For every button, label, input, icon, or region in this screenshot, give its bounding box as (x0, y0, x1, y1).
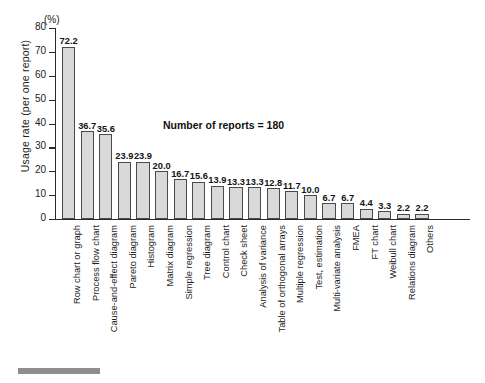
bar-value-label: 72.2 (60, 36, 78, 46)
y-axis-tick-label: 80 (35, 21, 46, 32)
bar: 23.9 (136, 162, 149, 219)
bar-value-label: 6.7 (323, 193, 336, 203)
bar-value-label: 13.3 (227, 177, 245, 187)
bar-value-label: 20.0 (153, 161, 171, 171)
y-axis-tick: 60 (49, 76, 55, 77)
bar-value-label: 12.8 (264, 178, 282, 188)
bar: 12.8 (267, 188, 280, 219)
x-axis-category-label: Histogram (146, 225, 156, 267)
x-axis-category-label: Relations diagram (407, 225, 417, 300)
bar: 15.6 (192, 182, 205, 219)
x-axis-category-label: Cause-and-effect diagram (109, 225, 119, 332)
bar: 6.7 (322, 203, 335, 219)
x-axis-category-label: Control chart (221, 225, 231, 278)
y-axis-tick-label: 40 (35, 117, 46, 128)
x-axis-category-label: Test, estimation (314, 225, 324, 290)
bar-value-label: 15.6 (190, 171, 208, 181)
bar-value-label: 23.9 (115, 151, 133, 161)
y-axis-label: Usage rate (per one report) (19, 11, 31, 201)
x-axis-category-label: Multiple regression (295, 225, 305, 303)
bar: 72.2 (62, 47, 75, 219)
bar: 6.7 (341, 203, 354, 219)
bar: 11.7 (285, 191, 298, 219)
bar-value-label: 11.7 (283, 181, 301, 191)
y-axis-tick-label: 50 (35, 93, 46, 104)
x-axis-category-label: Analysis of variance (258, 225, 268, 308)
bar-value-label: 35.6 (97, 124, 115, 134)
y-axis-tick-label: 70 (35, 45, 46, 56)
bar-value-label: 6.7 (341, 193, 354, 203)
y-axis-tick: 80 (49, 28, 55, 29)
bar: 35.6 (99, 134, 112, 219)
bar-value-label: 16.7 (171, 169, 189, 179)
bar: 13.3 (248, 187, 261, 219)
x-axis-category-label: FT chart (370, 225, 380, 259)
bar-value-label: 4.4 (360, 198, 373, 208)
y-axis-line (55, 28, 56, 219)
x-axis-category-label: Weibull chart (388, 225, 398, 279)
caption-rule (18, 368, 100, 374)
x-axis-category-label: Process flow chart (91, 225, 101, 301)
y-axis-tick: 70 (49, 52, 55, 53)
y-axis-tick-label: 60 (35, 69, 46, 80)
bar: 16.7 (174, 179, 187, 219)
bar: 13.9 (211, 186, 224, 219)
bar-value-label: 13.3 (246, 177, 264, 187)
bar: 2.2 (415, 214, 428, 219)
bar: 4.4 (360, 209, 373, 220)
y-axis-tick: 50 (49, 100, 55, 101)
y-axis-tick-label: 10 (35, 188, 46, 199)
bar-value-label: 23.9 (134, 151, 152, 161)
bar: 36.7 (81, 131, 94, 219)
bar-value-label: 3.3 (378, 201, 391, 211)
x-axis-category-label: Others (425, 225, 435, 253)
x-axis-category-label: Simple regression (184, 225, 194, 299)
y-axis-tick: 30 (49, 147, 55, 148)
x-axis-category-label: Table of orthogonal arrays (277, 225, 287, 333)
x-axis-category-label: Row chart or graph (72, 225, 82, 304)
x-axis-category-label: Multi-variate analysis (332, 225, 342, 312)
x-axis-category-label: Check sheet (239, 225, 249, 277)
bar-chart-figure: Usage rate (per one report) (%) 01020304… (0, 0, 485, 383)
y-axis-tick: 10 (49, 195, 55, 196)
bar-value-label: 2.2 (416, 203, 429, 213)
report-count-annotation: Number of reports = 180 (163, 119, 284, 131)
bar: 2.2 (397, 214, 410, 219)
bar-value-label: 2.2 (397, 203, 410, 213)
y-axis-unit-label: (%) (44, 14, 60, 25)
bar-value-label: 13.9 (208, 175, 226, 185)
bar: 23.9 (118, 162, 131, 219)
x-axis-baseline (55, 219, 470, 220)
y-axis-tick-label: 0 (40, 212, 46, 223)
x-axis-category-label: FMEA (351, 225, 361, 251)
bar: 3.3 (378, 211, 391, 219)
x-axis-category-label: Pareto diagram (128, 225, 138, 289)
y-axis-tick-label: 20 (35, 164, 46, 175)
x-axis-category-label: Tree diagram (202, 225, 212, 280)
y-axis-tick-label: 30 (35, 140, 46, 151)
bar: 13.3 (229, 187, 242, 219)
x-axis-category-label: Matrix diagram (165, 225, 175, 286)
y-axis-tick: 0 (49, 219, 55, 220)
bar: 10.0 (304, 195, 317, 219)
y-axis-tick: 40 (49, 124, 55, 125)
bar: 20.0 (155, 171, 168, 219)
y-axis-tick: 20 (49, 171, 55, 172)
bar-value-label: 10.0 (301, 185, 319, 195)
bar-value-label: 36.7 (78, 121, 96, 131)
